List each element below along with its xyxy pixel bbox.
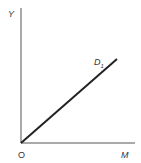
origin-label: O — [18, 151, 25, 160]
series-line-d1 — [21, 59, 117, 143]
y-axis-label: Y — [8, 10, 14, 19]
x-axis-label: M — [121, 151, 129, 160]
series-label-subscript: 1 — [101, 63, 104, 69]
chart-canvas — [0, 0, 141, 163]
series-label-d1: D1 — [94, 58, 104, 69]
